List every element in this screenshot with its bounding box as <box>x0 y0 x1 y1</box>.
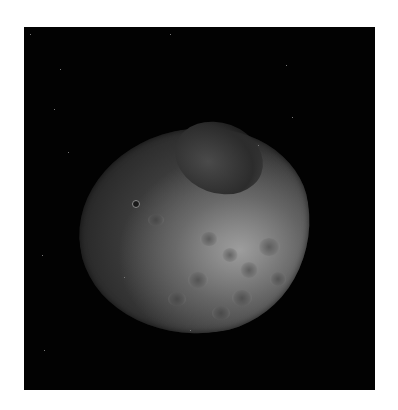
star-speck <box>60 69 61 70</box>
crater <box>222 248 238 262</box>
star-speck <box>124 277 125 278</box>
star-speck <box>190 330 191 331</box>
star-speck <box>292 117 293 118</box>
crater <box>270 272 286 286</box>
crater <box>148 214 164 226</box>
star-speck <box>170 34 171 35</box>
crater <box>168 292 186 306</box>
star-speck <box>258 145 259 146</box>
star-speck <box>30 34 31 35</box>
star-speck <box>286 65 287 66</box>
crater <box>258 238 280 256</box>
small-bright-crater <box>132 200 140 208</box>
crater <box>240 262 258 278</box>
crater <box>188 272 208 288</box>
star-speck <box>68 152 69 153</box>
moon-photograph <box>24 27 375 390</box>
crater <box>200 232 218 246</box>
star-speck <box>42 255 43 256</box>
star-speck <box>54 109 55 110</box>
crater <box>212 306 230 320</box>
star-speck <box>44 350 45 351</box>
crater <box>232 290 252 306</box>
